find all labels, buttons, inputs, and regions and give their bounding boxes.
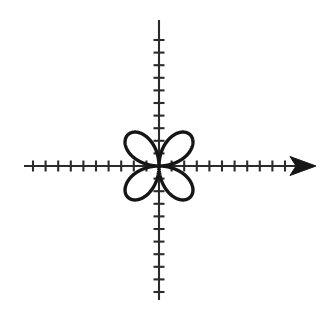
plot-canvas: [0, 0, 336, 320]
plot-background: [0, 0, 336, 320]
rose-curve-figure: [0, 0, 336, 320]
